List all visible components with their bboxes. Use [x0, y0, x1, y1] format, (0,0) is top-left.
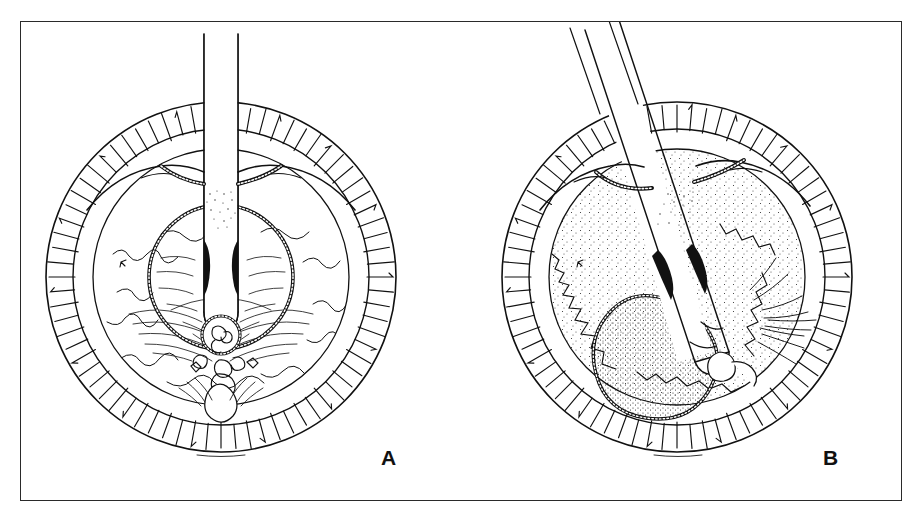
- panel-b-label: B: [823, 447, 838, 468]
- figure-frame: A: [20, 21, 902, 501]
- panel-b: B: [462, 22, 903, 502]
- instrument-shaft-fill: [205, 34, 238, 329]
- panel-a-drawing: [46, 34, 396, 457]
- artist-signature-stroke: [197, 455, 245, 457]
- panel-b-drawing: [502, 22, 852, 457]
- figure-root: A: [0, 0, 920, 523]
- aspirated-material-droplet: [205, 384, 237, 422]
- panel-a: A: [21, 22, 462, 502]
- panel-a-label: A: [381, 447, 396, 468]
- panel-b-illustration: [462, 22, 903, 502]
- panel-a-illustration: [21, 22, 462, 502]
- artist-signature-stroke: [654, 455, 702, 457]
- limbus-tick-mark: [120, 260, 126, 267]
